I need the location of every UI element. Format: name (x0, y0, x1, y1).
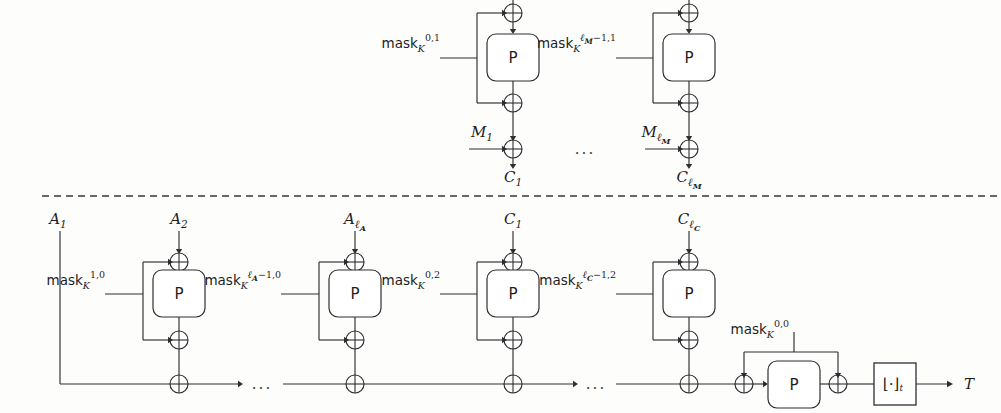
permutation-label: P (508, 285, 517, 303)
auth-ellipsis-c: ... (586, 375, 606, 393)
ciphertext-output-label: CℓM (676, 168, 702, 191)
xor-gate (504, 375, 522, 393)
permutation-label: P (789, 376, 798, 394)
enc-block-last: P maskKℓM−1,1 MℓM CℓM (537, 0, 715, 191)
auth-block-a2: A2 P maskK1,0 (47, 210, 206, 393)
associated-data-input-label: A2 (168, 210, 188, 230)
permutation-label: P (684, 285, 693, 303)
mask-label: maskKℓC−1,2 (539, 269, 616, 291)
mask-label: maskKℓA−1,0 (204, 269, 281, 291)
mask-label: maskK0,0 (731, 318, 790, 340)
mask-label: maskK0,1 (382, 32, 441, 54)
encryption-ellipsis: ... (575, 140, 595, 158)
auth-ellipsis-a: ... (252, 375, 272, 393)
tag-generation-stage: P maskK0,0 ⌊·⌋t T (731, 318, 975, 408)
mask-label: maskKℓM−1,1 (537, 32, 616, 54)
mask-label: maskK1,0 (47, 269, 106, 291)
xor-gate (680, 375, 698, 393)
message-input-label: M1 (470, 123, 493, 143)
xor-gate (346, 375, 364, 393)
scheme-svg-canvas: P maskK0,1 M1 (0, 0, 1001, 413)
tag-output-label: T (964, 375, 975, 393)
ciphertext-output-label: C1 (504, 168, 522, 188)
permutation-label: P (174, 285, 183, 303)
ciphertext-input-label: CℓC (678, 210, 701, 233)
associated-data-input-label: A1 (47, 210, 67, 230)
mask-label: maskK0,2 (382, 269, 441, 291)
ciphertext-input-label: C1 (504, 210, 522, 230)
enc-block-1: P maskK0,1 M1 (382, 0, 540, 188)
auth-block-c1: C1 P maskK0,2 (382, 210, 540, 393)
xor-gate (170, 375, 188, 393)
auth-initial-input: A1 (47, 210, 67, 384)
permutation-label: P (684, 49, 693, 67)
permutation-label: P (508, 49, 517, 67)
permutation-label: P (350, 285, 359, 303)
auth-block-alast: AℓA P maskKℓA−1,0 (204, 210, 381, 393)
message-input-label: MℓM (641, 123, 672, 146)
associated-data-input-label: AℓA (342, 210, 366, 233)
auth-block-clast: CℓC P maskKℓC−1,2 (539, 210, 715, 393)
cryptographic-scheme-diagram: P maskK0,1 M1 (0, 0, 1001, 413)
